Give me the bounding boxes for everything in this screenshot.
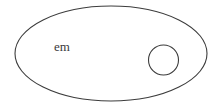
inner-circle xyxy=(149,45,179,75)
em-label: em xyxy=(54,39,70,54)
outer-ellipse xyxy=(15,6,207,101)
diagram-canvas: em xyxy=(0,0,221,108)
set-diagram: em xyxy=(0,0,221,108)
